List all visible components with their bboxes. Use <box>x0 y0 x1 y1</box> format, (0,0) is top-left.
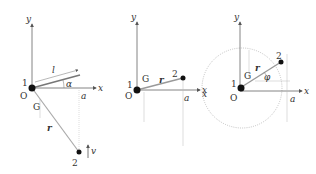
a-label: a <box>81 91 86 101</box>
mass-1-label: 1 <box>231 79 237 89</box>
mass-1-dot <box>238 85 245 92</box>
panel-2: y x 1 O G r 2 a <box>125 12 207 146</box>
y-label: y <box>25 14 32 24</box>
x-left-label: x <box>202 89 207 99</box>
phi-label: φ <box>264 72 271 82</box>
G-label: G <box>142 74 149 84</box>
alpha-label: α <box>66 79 72 89</box>
mass-1-dot <box>134 87 141 94</box>
origin-label: O <box>20 91 27 101</box>
x-label: x <box>304 86 309 96</box>
panel-3: y x x 1 O G r 2 φ a <box>202 12 309 128</box>
y-label: y <box>130 12 137 22</box>
origin-label: O <box>230 93 237 103</box>
l-label: l <box>52 65 55 75</box>
rod-r <box>32 88 79 152</box>
y-label: y <box>233 12 240 22</box>
alpha-arc <box>63 80 64 88</box>
mass-1-label: 1 <box>127 80 133 90</box>
rod-l <box>32 75 80 88</box>
G-label: G <box>33 102 40 112</box>
v-label: v <box>91 146 96 156</box>
origin-label: O <box>125 91 132 101</box>
mass-2-dot <box>181 76 186 81</box>
mass-1-label: 1 <box>22 78 28 88</box>
a-label: a <box>290 94 295 104</box>
a-label: a <box>184 93 189 103</box>
G-label: G <box>244 71 251 81</box>
diagram-canvas: y x 1 O G l α a r 2 v y x 1 O G r 2 a <box>0 0 316 174</box>
mass-2-label: 2 <box>276 51 282 61</box>
mass-2-dot <box>77 150 82 155</box>
r-label: r <box>47 123 53 133</box>
mass-1-dot <box>29 85 36 92</box>
panel-1: y x 1 O G l α a r 2 v <box>20 14 103 168</box>
mass-2-label: 2 <box>72 158 78 168</box>
mass-2-label: 2 <box>172 69 178 79</box>
r-label: r <box>255 63 261 73</box>
x-label: x <box>98 83 103 93</box>
